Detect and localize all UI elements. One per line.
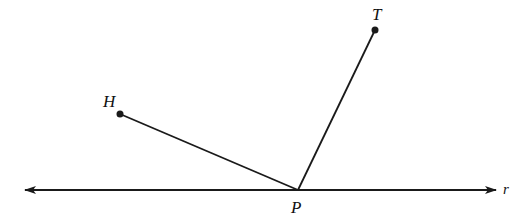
geometry-diagram: H T P r xyxy=(0,0,532,220)
point-t-label: T xyxy=(372,5,383,24)
point-t-dot xyxy=(372,27,379,34)
line-r-label: r xyxy=(503,181,509,197)
point-p-label: P xyxy=(290,198,301,217)
segment-tp xyxy=(298,30,375,190)
diagram-svg: H T P r xyxy=(0,0,532,220)
point-h-dot xyxy=(117,111,124,118)
point-h-label: H xyxy=(102,92,117,111)
segment-hp xyxy=(120,114,298,190)
